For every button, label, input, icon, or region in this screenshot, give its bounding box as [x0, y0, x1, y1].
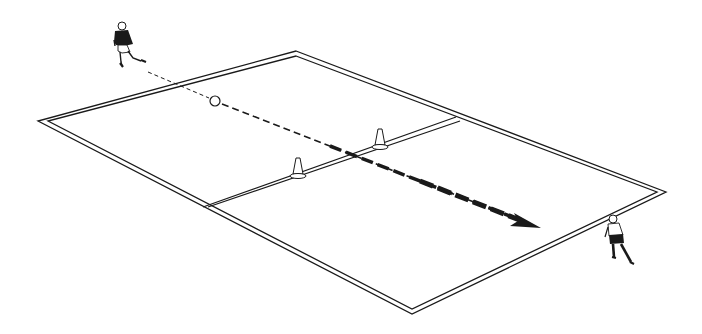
pass-line-thin — [148, 72, 209, 98]
cone-icon — [290, 158, 306, 179]
field-canvas — [0, 0, 702, 334]
cone-icon — [372, 129, 388, 150]
player-receiver-icon — [605, 215, 634, 264]
field-outer-boundary — [38, 51, 666, 314]
player-passer-icon — [114, 22, 146, 67]
pass-arrow — [222, 104, 541, 228]
halfway-line — [203, 117, 460, 207]
ball-icon — [210, 96, 220, 106]
drill-diagram — [0, 0, 702, 334]
